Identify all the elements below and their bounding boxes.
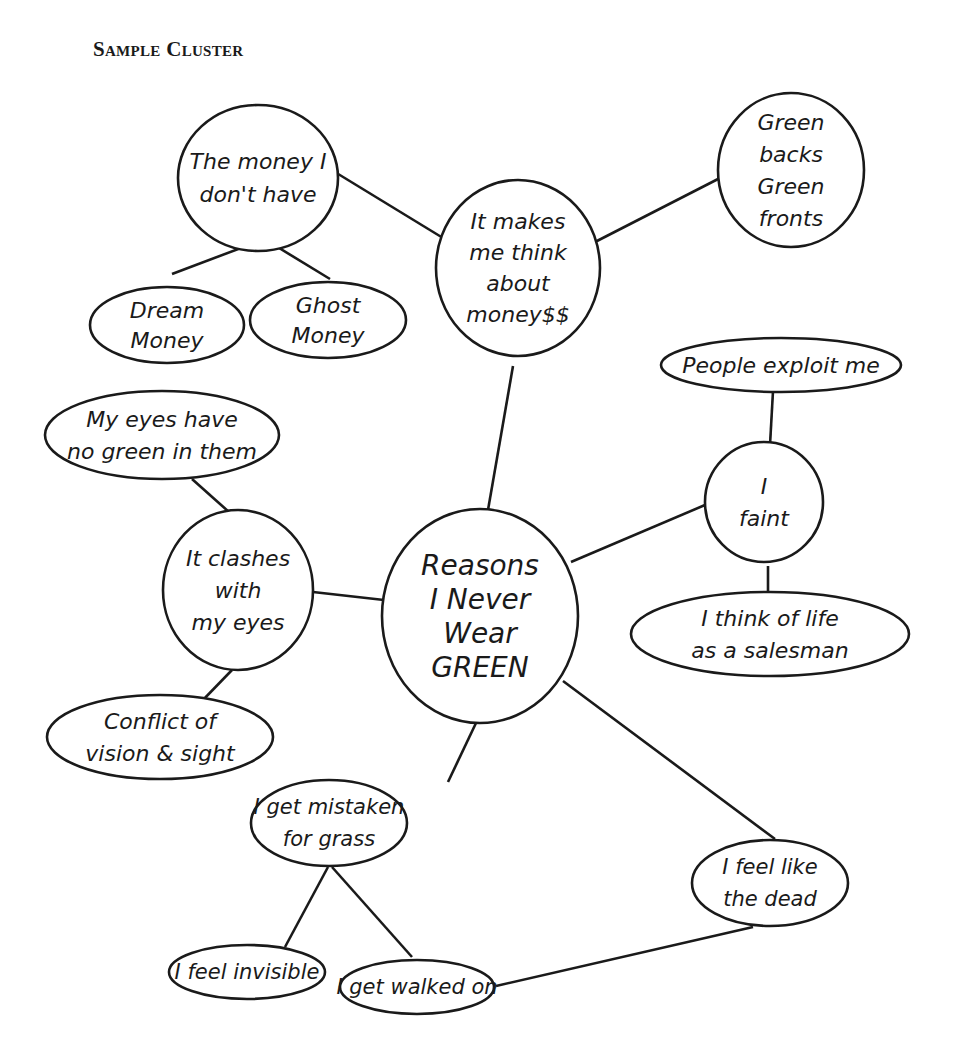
node-bubble xyxy=(436,180,600,356)
edge-feel-dead-to-walked-on xyxy=(496,927,753,986)
node-label-line: don't have xyxy=(199,182,316,207)
node-bubble xyxy=(251,780,407,866)
node-clashes: It clasheswithmy eyes xyxy=(163,510,313,670)
node-label-line: for grass xyxy=(283,827,375,851)
node-label-line: the dead xyxy=(723,887,817,911)
node-bubble xyxy=(47,695,273,779)
node-label-line: Wear xyxy=(443,617,518,650)
node-label-line: Green xyxy=(757,174,824,199)
node-walked-on: I get walked on xyxy=(336,960,497,1014)
node-money-i-dont-have: The money Idon't have xyxy=(178,105,338,251)
edge-clashes-to-no-green-eyes xyxy=(192,479,229,512)
node-label-line: I get walked on xyxy=(336,975,497,999)
node-bubble xyxy=(705,442,823,562)
node-i-faint: Ifaint xyxy=(705,442,823,562)
node-label-line: fronts xyxy=(759,206,823,231)
edge-mistaken-grass-to-feel-invisible xyxy=(285,867,328,947)
edge-center-to-mistaken-grass xyxy=(448,723,476,782)
node-bubble xyxy=(631,592,909,676)
node-label-line: I think of life xyxy=(701,606,839,631)
node-label-line: Reasons xyxy=(421,549,539,582)
node-label-line: I feel invisible xyxy=(175,960,320,984)
node-feel-dead: I feel likethe dead xyxy=(692,840,848,926)
node-label-line: I get mistaken xyxy=(254,795,405,819)
node-money: It makesme thinkaboutmoney$$ xyxy=(436,180,600,356)
node-label-line: I feel like xyxy=(722,855,817,879)
node-label-line: vision & sight xyxy=(85,741,236,766)
edge-money-to-green-backs xyxy=(595,178,720,242)
node-label-line: I xyxy=(761,474,768,499)
edge-money-to-money-i-dont-have xyxy=(330,169,443,238)
nodes-layer: ReasonsI NeverWearGREENIt makesme thinka… xyxy=(45,93,909,1014)
node-label-line: no green in them xyxy=(67,439,257,464)
node-ghost-money: GhostMoney xyxy=(250,282,406,358)
node-label-line: Conflict of xyxy=(104,709,219,734)
node-label-line: My eyes have xyxy=(86,407,238,432)
node-label-line: as a salesman xyxy=(691,638,848,663)
node-conflict: Conflict ofvision & sight xyxy=(47,695,273,779)
node-label-line: me think xyxy=(469,240,568,265)
node-people-exploit: People exploit me xyxy=(661,338,901,392)
edge-center-to-feel-dead xyxy=(563,681,775,839)
edge-center-to-i-faint xyxy=(571,505,705,562)
node-bubble xyxy=(45,391,279,479)
node-dream-money: DreamMoney xyxy=(90,287,244,363)
edge-mistaken-grass-to-walked-on xyxy=(332,867,412,957)
cluster-diagram: ReasonsI NeverWearGREENIt makesme thinka… xyxy=(0,0,957,1055)
node-label-line: Ghost xyxy=(296,293,362,318)
node-label-line: Dream xyxy=(130,298,204,323)
node-bubble xyxy=(178,105,338,251)
edge-i-faint-to-people-exploit xyxy=(770,391,773,445)
node-label-line: backs xyxy=(759,142,823,167)
node-label-line: Money xyxy=(292,323,366,348)
edge-center-to-money xyxy=(488,366,513,510)
node-label-line: It makes xyxy=(471,209,566,234)
node-label-line: Green xyxy=(757,110,824,135)
node-label-line: It clashes xyxy=(186,546,290,571)
node-mistaken-grass: I get mistakenfor grass xyxy=(251,780,407,866)
node-center: ReasonsI NeverWearGREEN xyxy=(382,509,578,723)
node-no-green-eyes: My eyes haveno green in them xyxy=(45,391,279,479)
node-label-line: Money xyxy=(131,328,205,353)
node-feel-invisible: I feel invisible xyxy=(169,945,325,999)
node-label-line: faint xyxy=(739,506,790,531)
node-label-line: with xyxy=(215,578,262,603)
edge-center-to-clashes xyxy=(313,592,384,600)
node-label-line: I Never xyxy=(430,583,532,616)
node-salesman: I think of lifeas a salesman xyxy=(631,592,909,676)
node-bubble xyxy=(692,840,848,926)
node-green-backs: GreenbacksGreenfronts xyxy=(718,93,864,247)
node-label-line: about xyxy=(486,271,551,296)
node-label-line: GREEN xyxy=(431,651,529,684)
node-label-line: The money I xyxy=(190,149,327,174)
node-label-line: People exploit me xyxy=(682,353,880,378)
node-label-line: my eyes xyxy=(192,610,285,635)
node-label-line: money$$ xyxy=(466,302,569,327)
